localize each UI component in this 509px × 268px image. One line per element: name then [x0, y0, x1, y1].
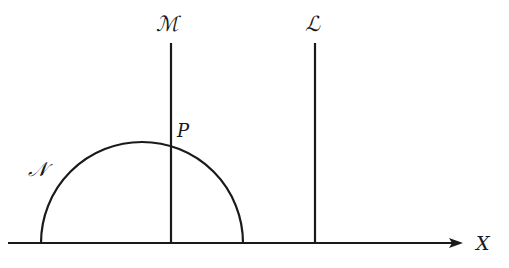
semicircle-n: [41, 142, 243, 243]
label-m: ℳ: [156, 12, 182, 36]
label-n: 𝒩: [28, 157, 53, 181]
label-l: ℒ: [305, 12, 321, 36]
label-x: X: [474, 232, 491, 254]
label-p: P: [176, 120, 190, 141]
diagram-canvas: ℳ ℒ 𝒩 P X: [0, 0, 509, 268]
